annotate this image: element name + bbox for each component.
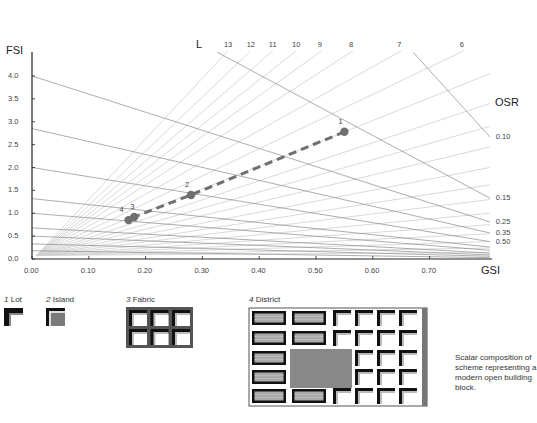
l-line-label: 9	[318, 40, 322, 49]
data-point-label: 3	[130, 202, 134, 211]
osr-line-label: 0.50	[496, 237, 511, 246]
data-point-label: 1	[338, 117, 342, 126]
l-line	[37, 51, 273, 256]
fabric-num: 3	[126, 295, 130, 304]
data-point	[124, 216, 132, 224]
lot-text: Lot	[11, 295, 22, 304]
y-tick-label: 1.5	[8, 185, 18, 194]
l-line	[37, 51, 464, 256]
l-line-label: 6	[460, 40, 464, 49]
fabric-diagram	[126, 307, 193, 348]
l-line	[37, 200, 490, 256]
x-tick-label: 0.50	[308, 266, 323, 275]
osr-lines-title: OSR	[495, 96, 519, 108]
data-point-label: 4	[120, 205, 124, 214]
x-axis-title: GSI	[481, 264, 500, 276]
osr-line	[217, 52, 490, 198]
island-diagram	[46, 308, 65, 326]
y-tick-label: 1.0	[8, 208, 18, 217]
l-line-label: 10	[292, 40, 300, 49]
fabric-label: 3 Fabric	[126, 295, 155, 304]
l-line-label: 8	[349, 40, 353, 49]
caption: Scalar composition of scheme representin…	[455, 353, 537, 393]
l-lines-title: L	[196, 38, 202, 50]
y-tick-label: 3.0	[8, 117, 18, 126]
osr-line-label: 0.10	[496, 132, 511, 141]
data-point-label: 2	[185, 180, 189, 189]
osr-line-label: 0.15	[496, 193, 511, 202]
lot-label: 1 Lot	[4, 295, 22, 304]
island-label: 2 Island	[46, 295, 74, 304]
x-tick-label: 0.70	[422, 266, 437, 275]
data-point	[187, 191, 195, 199]
l-line-label: 11	[269, 40, 277, 49]
l-line-label: 7	[397, 40, 401, 49]
x-tick-label: 0.10	[81, 266, 96, 275]
y-tick-label: 3.5	[8, 94, 18, 103]
osr-line-label: 0.35	[496, 228, 511, 237]
island-text: Island	[53, 295, 74, 304]
lot-num: 1	[4, 295, 8, 304]
l-line-label: 13	[224, 40, 232, 49]
x-tick-label: 0.20	[138, 266, 153, 275]
y-tick-label: 2.0	[8, 163, 18, 172]
island-num: 2	[46, 295, 50, 304]
osr-line	[413, 52, 490, 137]
x-tick-label: 0.30	[194, 266, 209, 275]
district-text: District	[256, 295, 280, 304]
x-tick-label: 0.40	[251, 266, 266, 275]
fabric-text: Fabric	[133, 295, 155, 304]
district-label: 4 District	[249, 295, 280, 304]
y-tick-label: 2.5	[8, 140, 18, 149]
y-tick-label: 0.5	[8, 231, 18, 240]
district-num: 4	[249, 295, 253, 304]
osr-line-label: 0.25	[496, 217, 511, 226]
district-diagram	[249, 308, 427, 406]
osr-lines	[32, 52, 490, 257]
data-point	[340, 128, 348, 136]
x-tick-label: 0.60	[365, 266, 380, 275]
y-tick-label: 4.0	[8, 71, 18, 80]
l-line-label: 12	[247, 40, 255, 49]
l-line	[37, 74, 490, 256]
y-axis-title: FSI	[6, 44, 23, 56]
l-line	[37, 51, 228, 256]
lot-diagram	[4, 308, 23, 326]
y-tick-label: 0.0	[8, 254, 18, 263]
l-lines	[37, 51, 490, 256]
x-tick-label: 0.00	[24, 266, 39, 275]
